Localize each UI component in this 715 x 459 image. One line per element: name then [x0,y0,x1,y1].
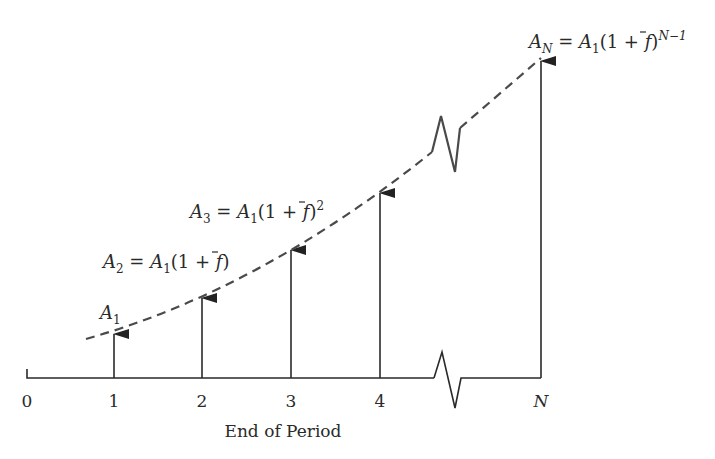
label-an: AN = A1(1 + f)N−1 [527,29,687,56]
curve-break-icon [432,116,460,172]
tick-label-2: 2 [197,391,208,411]
tick-label-1: 1 [109,391,120,411]
geometric-gradient-diagram: 0 1 2 3 4 N End of Period A1 A2 = A1(1 +… [0,0,715,459]
cash-flow-arrows [114,61,541,378]
tick-label-0: 0 [22,391,33,411]
label-a2: A2 = A1(1 + f) [101,251,230,276]
tick-label-n: N [533,391,550,411]
growth-curve-dashed-upper [460,58,541,128]
time-axis [27,352,541,408]
axis-left-tick [27,369,434,378]
tick-label-3: 3 [286,391,297,411]
growth-curve [86,58,541,339]
label-a1: A1 [98,302,121,327]
label-a3: A3 = A1(1 + f)2 [188,199,324,226]
axis-title: End of Period [225,421,342,441]
axis-tick-labels: 0 1 2 3 4 N [22,391,550,411]
axis-break-icon [434,352,541,408]
tick-label-4: 4 [375,391,386,411]
